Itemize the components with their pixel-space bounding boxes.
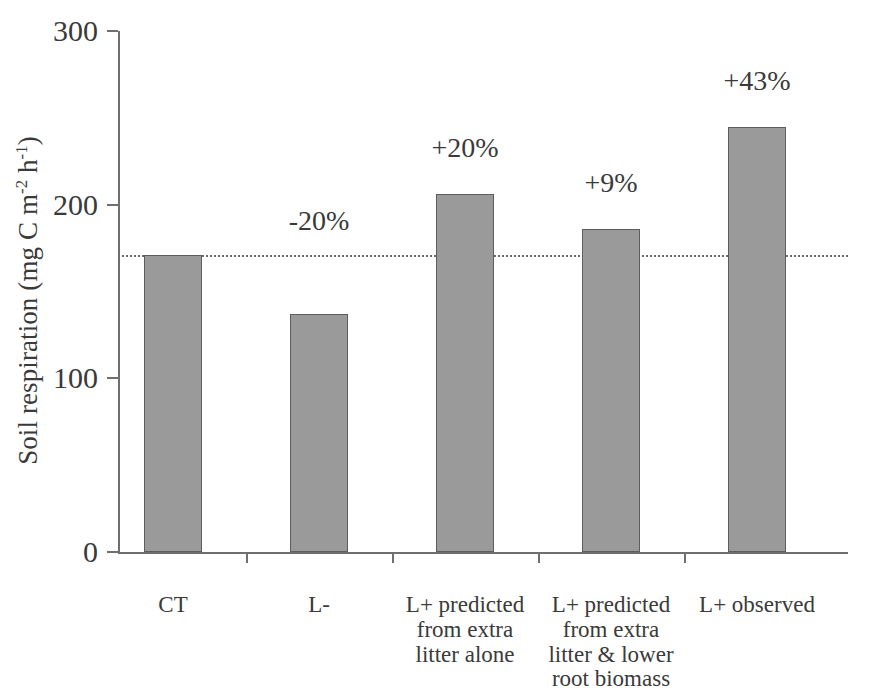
y-axis-line [118, 31, 120, 554]
x-axis-category-label: L+ predictedfrom extralitter alone [406, 593, 524, 667]
y-axis-title-mid: h [13, 159, 43, 179]
y-axis-tick: 0 [107, 551, 118, 553]
plot-area: 0100200300 -20%+20%+9%+43% CTL-L+ predic… [118, 31, 848, 553]
y-axis-tick-label: 200 [53, 188, 98, 222]
y-axis-title-post: ) [13, 136, 43, 145]
x-axis-category-label-line: from extra [548, 618, 673, 643]
x-axis-category-label-line: litter alone [406, 643, 524, 668]
x-axis-category-label-line: from extra [406, 618, 524, 643]
y-axis-tick-label: 0 [83, 535, 98, 569]
x-axis-category-label-line: root biomass [548, 667, 673, 692]
x-axis-category-label-line: L+ predicted [406, 593, 524, 618]
y-axis-title-sup-hour: -1 [12, 145, 31, 159]
x-axis-category-label: L+ predictedfrom extralitter & lowerroot… [548, 593, 673, 692]
bar-annotation: +20% [431, 132, 498, 164]
x-axis-line [118, 552, 848, 554]
x-axis-category-label-line: L+ predicted [548, 593, 673, 618]
y-axis-tick: 100 [107, 377, 118, 379]
bar [582, 229, 640, 552]
x-axis-category-label: CT [158, 593, 187, 618]
x-axis-category-label-line: L- [308, 593, 330, 618]
x-axis-tick [392, 552, 394, 563]
bar [436, 194, 494, 552]
y-axis-title-container: Soil respiration (mg C m-2 h-1) [0, 0, 56, 600]
x-axis-category-label-line: CT [158, 593, 187, 618]
x-axis-tick [246, 552, 248, 563]
bar [144, 255, 202, 552]
y-axis-tick-label: 100 [53, 361, 98, 395]
y-axis-title-sup-area: -2 [12, 179, 31, 193]
x-axis-tick [684, 552, 686, 563]
figure-bar-chart: Soil respiration (mg C m-2 h-1) 01002003… [0, 0, 878, 694]
x-axis-category-label: L- [308, 593, 330, 618]
bar-annotation: +9% [584, 167, 637, 199]
y-axis-tick-label: 300 [53, 14, 98, 48]
y-axis-tick: 300 [107, 30, 118, 32]
y-axis-title: Soil respiration (mg C m-2 h-1) [13, 136, 44, 465]
x-axis-category-label: L+ observed [699, 593, 815, 618]
bar-annotation: -20% [289, 205, 350, 237]
x-axis-tick [538, 552, 540, 563]
bar [290, 314, 348, 552]
y-axis-title-pre: Soil respiration (mg C m [13, 193, 43, 464]
x-axis-category-label-line: litter & lower [548, 643, 673, 668]
y-axis-tick: 200 [107, 204, 118, 206]
bar [728, 127, 786, 552]
x-axis-category-label-line: L+ observed [699, 593, 815, 618]
bar-annotation: +43% [723, 65, 790, 97]
